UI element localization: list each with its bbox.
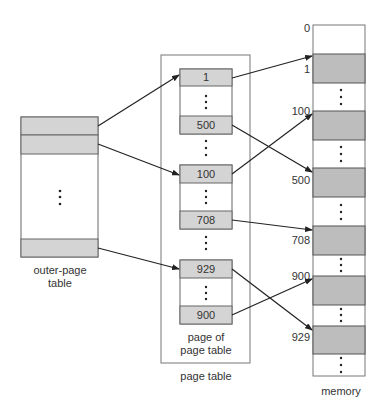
outer-table-label-1: outer-page <box>33 264 86 276</box>
pt-entry-929-label: 929 <box>197 263 215 275</box>
mem-frame-708 <box>313 226 365 255</box>
arrow-outer2-to-pt2 <box>98 144 179 175</box>
page-table: 1 500 100 708 929 900 page of page table <box>161 55 250 382</box>
mem-addr-900: 900 <box>292 270 310 282</box>
arrow-outer1-to-pt1 <box>98 75 179 126</box>
paging-diagram: outer-page table 1 500 100 708 <box>0 0 385 416</box>
mem-addr-708: 708 <box>292 234 310 246</box>
pt-entry-100-label: 100 <box>197 168 215 180</box>
mem-addr-1: 1 <box>304 63 310 75</box>
outer-page-table: outer-page table <box>21 117 98 289</box>
page-of-page-table-2: 100 708 <box>180 165 232 229</box>
outer-entry-2 <box>21 135 98 154</box>
pt-entry-900-label: 900 <box>197 309 215 321</box>
outer-entry-1 <box>21 117 98 135</box>
outer-table-label-2: table <box>48 277 72 289</box>
page-table-label: page table <box>180 370 231 382</box>
arrow-pt1-to-mem1 <box>232 56 312 78</box>
ellipsis-icon <box>205 236 207 250</box>
ellipsis-icon <box>205 140 207 156</box>
pt-entry-708-label: 708 <box>197 214 215 226</box>
mem-addr-0: 0 <box>304 22 310 34</box>
memory: 0 1 100 500 708 900 929 memory <box>292 22 365 397</box>
mem-frame-929 <box>313 326 365 354</box>
page-of-page-table-1: 1 500 <box>180 69 232 134</box>
arrow-pt900-to-mem900 <box>232 279 312 315</box>
mem-frame-1 <box>313 54 365 83</box>
arrow-outer3-to-pt3 <box>98 248 179 269</box>
pt-entry-500-label: 500 <box>197 119 215 131</box>
mem-addr-500: 500 <box>292 174 310 186</box>
page-of-page-table-label-1: page of <box>188 331 226 343</box>
arrow-pt708-to-mem708 <box>232 220 312 230</box>
mem-frame-100 <box>313 111 365 140</box>
outer-entry-3 <box>21 239 98 257</box>
mem-addr-100: 100 <box>292 105 310 117</box>
page-of-page-table-3: 929 900 <box>180 260 232 324</box>
mem-frame-900 <box>313 276 365 305</box>
memory-label: memory <box>321 385 361 397</box>
pt-entry-1-label: 1 <box>203 71 209 83</box>
mem-addr-929: 929 <box>292 331 310 343</box>
mem-frame-500 <box>313 168 365 197</box>
page-of-page-table-label-2: page table <box>180 344 231 356</box>
